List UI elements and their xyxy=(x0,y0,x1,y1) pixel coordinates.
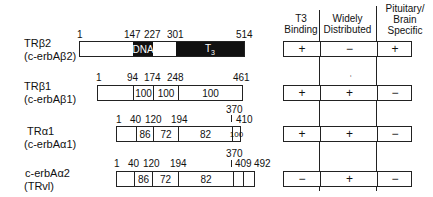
receptor-name-c-erbaa2: c-erbAα2 xyxy=(25,167,70,180)
header-t3-binding: T3 Binding xyxy=(283,13,319,35)
table-row-trb2: + − + xyxy=(283,41,412,57)
position-label: 301 xyxy=(167,29,184,40)
domain-segment: 100 xyxy=(232,127,240,141)
position-label: 120 xyxy=(143,158,160,169)
stray-mark: ‘ xyxy=(350,74,352,81)
position-tick xyxy=(231,115,232,122)
header-line: Brain xyxy=(377,14,433,25)
position-label: 1 xyxy=(96,72,102,83)
header-line: Widely xyxy=(319,13,376,24)
receptor-alias-c-erbaa2: (TRvl) xyxy=(24,180,54,193)
table-row-c-erbaa2: − + − xyxy=(283,171,412,187)
table-row-trb1: + + − xyxy=(283,85,412,101)
domain-segment: 86 xyxy=(134,172,152,186)
receptor-alias-trb2: (c-erbAβ2) xyxy=(24,50,76,63)
domain-segment: 100 xyxy=(133,86,153,100)
position-label: 94 xyxy=(127,72,138,83)
position-label: 40 xyxy=(128,158,139,169)
position-label: 514 xyxy=(236,29,253,40)
dna-binding-domain: DNA xyxy=(133,42,153,56)
position-label: 120 xyxy=(145,114,162,125)
cell-t3-binding: − xyxy=(284,172,320,186)
position-label: 147 xyxy=(124,29,141,40)
protein-bar-c-erbaa2: 86 72 82 xyxy=(116,171,255,187)
domain-segment: 100 xyxy=(153,86,178,100)
position-label: 492 xyxy=(254,158,271,169)
position-label: 248 xyxy=(167,72,184,83)
protein-bar-trb1: 100 100 100 xyxy=(97,85,243,101)
domain-segment: 82 xyxy=(178,127,232,141)
protein-bar-trb2: DNA T3 xyxy=(79,41,245,57)
domain-segment: 100 xyxy=(178,86,242,100)
receptor-name-tra1: TRα1 xyxy=(27,125,54,138)
position-label: 1 xyxy=(114,158,120,169)
domain-segment xyxy=(117,127,136,141)
t3-binding-domain: T3 xyxy=(176,42,244,56)
cell-widely-distributed: + xyxy=(320,127,378,141)
domain-segment: 82 xyxy=(178,172,233,186)
cell-widely-distributed: + xyxy=(320,86,378,100)
domain-segment xyxy=(243,172,254,186)
cell-t3-binding: + xyxy=(284,127,320,141)
header-line: T3 xyxy=(283,13,319,24)
position-label: 194 xyxy=(170,158,187,169)
cell-widely-distributed: − xyxy=(320,42,378,56)
position-label: 461 xyxy=(233,72,250,83)
domain-segment: 72 xyxy=(152,172,178,186)
receptor-name-trb1: TRβ1 xyxy=(24,80,51,93)
cell-pituitary-brain-specific: − xyxy=(377,172,412,186)
position-label: 1 xyxy=(77,29,83,40)
position-label: 40 xyxy=(130,114,141,125)
cell-pituitary-brain-specific: + xyxy=(377,42,412,56)
domain-segment: 72 xyxy=(153,127,178,141)
position-tick xyxy=(231,160,232,167)
position-label: 1 xyxy=(116,114,122,125)
header-widely-distributed: Widely Distributed xyxy=(319,13,376,35)
domain-segment xyxy=(117,172,134,186)
domain-segment xyxy=(233,172,243,186)
cell-t3-binding: + xyxy=(284,42,320,56)
position-label: 174 xyxy=(144,72,161,83)
position-label: 227 xyxy=(144,29,161,40)
receptor-name-trb2: TRβ2 xyxy=(24,37,51,50)
header-pituitary-brain-specific: Pituitary/ Brain Specific xyxy=(377,3,433,36)
domain-segment: 86 xyxy=(136,127,153,141)
position-label: 194 xyxy=(171,114,188,125)
domain-segment xyxy=(80,42,133,56)
position-label: 409 xyxy=(235,158,252,169)
header-line: Pituitary/ xyxy=(377,3,433,14)
cell-pituitary-brain-specific: − xyxy=(377,127,412,141)
cell-t3-binding: + xyxy=(284,86,320,100)
receptor-alias-trb1: (c-erbAβ1) xyxy=(24,93,76,106)
protein-bar-tra1: 86 72 82 100 xyxy=(116,126,241,142)
table-row-tra1: + + − xyxy=(283,126,412,142)
header-line: Distributed xyxy=(319,24,376,35)
header-line: Binding xyxy=(283,24,319,35)
header-line: Specific xyxy=(377,25,433,36)
domain-segment xyxy=(98,86,133,100)
position-label: 410 xyxy=(236,114,253,125)
cell-widely-distributed: + xyxy=(320,172,378,186)
domain-segment xyxy=(153,42,176,56)
t3-label: T3 xyxy=(205,43,215,56)
receptor-alias-tra1: (c-erbAα1) xyxy=(24,138,76,151)
cell-pituitary-brain-specific: − xyxy=(377,86,412,100)
